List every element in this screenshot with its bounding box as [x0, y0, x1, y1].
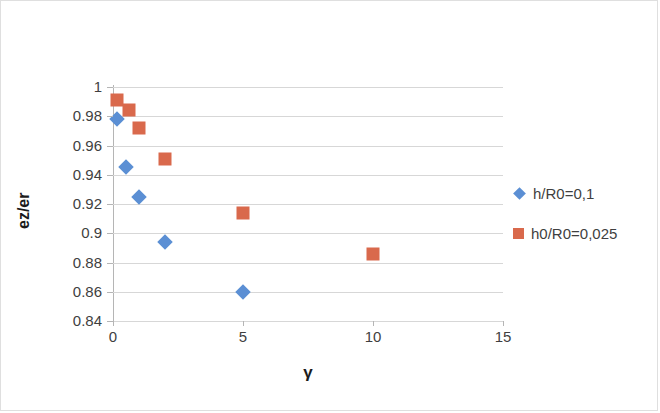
x-axis-tick-label: 0: [109, 328, 117, 345]
gridline: [113, 321, 503, 322]
data-point-diamond: [235, 284, 251, 300]
legend-square-icon: [513, 228, 524, 239]
x-axis-tick: [503, 321, 504, 326]
gridline: [113, 204, 503, 205]
data-point-square: [237, 206, 250, 219]
y-axis-tick-label: 0.98: [73, 108, 102, 123]
chart-legend: h/R0=0,1h0/R0=0,025: [513, 173, 653, 253]
y-axis-tick: [107, 146, 113, 147]
plot-area: [113, 87, 503, 321]
x-axis-tick-label: 10: [365, 328, 382, 345]
y-axis-tick: [107, 116, 113, 117]
data-point-square: [367, 247, 380, 260]
y-axis-tick: [107, 87, 113, 88]
x-axis-tick-label: 5: [239, 328, 247, 345]
legend-item[interactable]: h/R0=0,1: [513, 173, 653, 213]
y-axis-tick-labels: 10.980.960.940.920.90.880.860.84: [1, 1, 102, 413]
x-axis-tick: [243, 321, 244, 326]
y-axis-tick-label: 1: [94, 79, 102, 94]
x-axis-title: γ: [113, 363, 503, 383]
legend-label: h/R0=0,1: [533, 185, 594, 202]
y-axis-tick: [107, 263, 113, 264]
y-axis-tick-label: 0.86: [73, 284, 102, 299]
data-point-square: [122, 104, 135, 117]
y-axis-tick: [107, 233, 113, 234]
x-axis-tick: [113, 321, 114, 326]
gridline: [113, 233, 503, 234]
legend-label: h0/R0=0,025: [531, 225, 617, 242]
gridline: [113, 292, 503, 293]
y-axis-tick: [107, 321, 113, 322]
gridline: [113, 175, 503, 176]
data-point-diamond: [157, 234, 173, 250]
chart-frame: ez/er 10.980.960.940.920.90.880.860.84 0…: [0, 0, 658, 411]
y-axis-tick-label: 0.84: [73, 313, 102, 328]
y-axis-tick-label: 0.94: [73, 167, 102, 182]
gridline: [113, 263, 503, 264]
y-axis-tick: [107, 175, 113, 176]
data-point-diamond: [131, 189, 147, 205]
gridline: [113, 87, 503, 88]
gridline: [113, 116, 503, 117]
y-axis-tick: [107, 204, 113, 205]
gridline: [113, 146, 503, 147]
data-point-diamond: [118, 160, 134, 176]
data-point-square: [133, 121, 146, 134]
y-axis-tick-label: 0.88: [73, 255, 102, 270]
y-axis-tick-label: 0.9: [81, 225, 102, 240]
legend-diamond-icon: [513, 187, 526, 200]
x-axis-tick: [373, 321, 374, 326]
y-axis-tick: [107, 292, 113, 293]
legend-item[interactable]: h0/R0=0,025: [513, 213, 653, 253]
data-point-square: [159, 152, 172, 165]
y-axis-tick-label: 0.92: [73, 196, 102, 211]
x-axis-tick-label: 15: [495, 328, 512, 345]
y-axis-tick-label: 0.96: [73, 138, 102, 153]
